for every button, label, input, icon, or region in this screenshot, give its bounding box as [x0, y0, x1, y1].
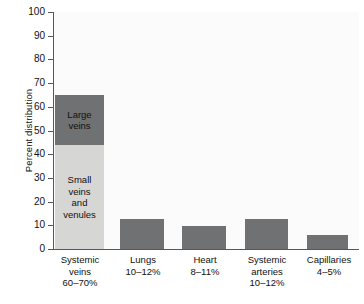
y-axis-tick [48, 59, 54, 60]
bar-heart [182, 226, 226, 250]
x-axis-label-systemic-arteries: Systemicarteries10–12% [234, 254, 300, 289]
y-axis-tick [48, 36, 54, 37]
bar-segment-label: Smallveinsandvenules [61, 174, 98, 220]
y-axis-tick-label-text: 50 [1, 126, 45, 136]
x-axis-label-name: Capillaries [296, 254, 362, 266]
y-axis-tick-label: 90 [0, 31, 45, 41]
bar-systemic-arteries [245, 219, 288, 250]
y-axis-tick-label: 0 [0, 244, 45, 254]
y-axis-tick-label: 50 [0, 126, 45, 136]
bar-segment-heart [182, 226, 226, 250]
y-axis-tick-label-text: 0 [1, 244, 45, 254]
y-axis-tick-label-text: 80 [1, 54, 45, 64]
y-axis-tick-label: 70 [0, 78, 45, 88]
y-axis-tick [48, 154, 54, 155]
y-axis-tick-label: 10 [0, 220, 45, 230]
y-axis-tick-label-text: 10 [1, 220, 45, 230]
x-axis-label-range: 60–70% [45, 277, 115, 289]
bar-segment-lungs [120, 219, 164, 250]
y-axis-tick-label: 20 [0, 197, 45, 207]
bar-segment-small-veins-and-venules: Smallveinsandvenules [55, 145, 104, 249]
y-axis-tick-label: 60 [0, 102, 45, 112]
y-axis-tick-label-text: 100 [1, 7, 45, 17]
x-axis-label-name: Heart [174, 254, 236, 266]
bar-lungs [120, 219, 164, 250]
y-axis-tick [48, 131, 54, 132]
y-axis-tick [48, 83, 54, 84]
y-axis-tick-label-text: 90 [1, 31, 45, 41]
y-axis-tick-label: 100 [0, 7, 45, 17]
y-axis-tick-label-text: 20 [1, 197, 45, 207]
y-axis-tick [48, 202, 54, 203]
x-axis-label-name: Systemicveins [45, 254, 115, 277]
y-axis-tick [48, 178, 54, 179]
x-axis-label-range: 8–11% [174, 266, 236, 278]
x-axis-label-heart: Heart8–11% [174, 254, 236, 277]
x-axis-label-range: 10–12% [234, 277, 300, 289]
x-axis-label-name: Lungs [110, 254, 176, 266]
y-axis-tick-label-text: 60 [1, 102, 45, 112]
bar-segment-large-veins: Largeveins [55, 95, 104, 145]
y-axis-tick-label-text: 70 [1, 78, 45, 88]
x-axis-label-range: 4–5% [296, 266, 362, 278]
y-axis-tick-label-text: 30 [1, 173, 45, 183]
bar-capillaries [307, 235, 348, 249]
y-axis-tick-label: 40 [0, 149, 45, 159]
y-axis-tick [48, 225, 54, 226]
x-axis-label-capillaries: Capillaries4–5% [296, 254, 362, 277]
y-axis-tick-label: 30 [0, 173, 45, 183]
bar-segment-systemic-arteries [245, 219, 288, 250]
bar-segment-label: Largeveins [65, 109, 93, 132]
y-axis-tick [48, 107, 54, 108]
y-axis-tick [48, 12, 54, 13]
x-axis-label-lungs: Lungs10–12% [110, 254, 176, 277]
x-axis-label-name: Systemicarteries [234, 254, 300, 277]
y-axis-tick-label-text: 40 [1, 149, 45, 159]
x-axis-label-systemic-veins: Systemicveins60–70% [45, 254, 115, 289]
y-axis-tick-label: 80 [0, 54, 45, 64]
x-axis-label-range: 10–12% [110, 266, 176, 278]
bar-chart: Percent distribution 0102030405060708090… [0, 0, 364, 304]
y-axis-tick [48, 249, 54, 250]
bar-segment-capillaries [307, 235, 348, 249]
bar-systemic-veins: LargeveinsSmallveinsandvenules [55, 95, 104, 249]
